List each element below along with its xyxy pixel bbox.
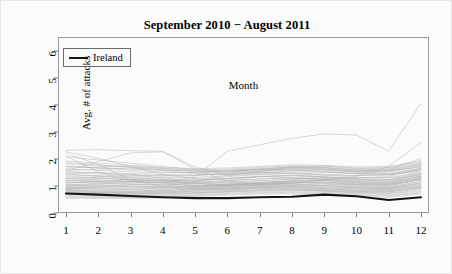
plot-area: Ireland Avg. # of attacks Month 0123456 … (58, 37, 429, 213)
x-tick-label: 12 (416, 224, 427, 236)
x-tick-mark (66, 213, 67, 217)
x-tick-label: 8 (289, 224, 295, 236)
x-tick-label: 9 (321, 224, 327, 236)
x-tick-mark (131, 213, 132, 217)
y-tick-label: 1 (45, 186, 57, 192)
y-tick-label: 2 (45, 159, 57, 165)
x-tick-mark (260, 213, 261, 217)
y-axis-title: Avg. # of attacks (80, 33, 92, 153)
x-tick-label: 2 (96, 224, 102, 236)
legend-label-ireland: Ireland (93, 52, 123, 63)
x-tick-mark (421, 213, 422, 217)
x-tick-mark (356, 213, 357, 217)
y-tick-label: 6 (45, 51, 57, 57)
y-tick-label: 0 (45, 213, 57, 219)
x-tick-label: 7 (257, 224, 263, 236)
x-tick-label: 6 (225, 224, 231, 236)
x-tick-mark (98, 213, 99, 217)
chart-title: September 2010 − August 2011 (1, 18, 452, 33)
y-tick-label: 4 (45, 105, 57, 111)
legend[interactable]: Ireland (63, 48, 131, 67)
x-tick-mark (163, 213, 164, 217)
chart-figure: September 2010 − August 2011 Ireland Avg… (0, 0, 452, 274)
x-tick-label: 4 (160, 224, 166, 236)
x-tick-mark (195, 213, 196, 217)
x-tick-label: 11 (383, 224, 394, 236)
y-tick-label: 3 (45, 132, 57, 138)
x-tick-mark (324, 213, 325, 217)
x-tick-label: 3 (128, 224, 134, 236)
x-tick-mark (227, 213, 228, 217)
x-tick-mark (292, 213, 293, 217)
x-tick-mark (389, 213, 390, 217)
y-tick-label: 5 (45, 78, 57, 84)
x-tick-label: 5 (192, 224, 198, 236)
x-tick-label: 1 (63, 224, 69, 236)
x-tick-label: 10 (351, 224, 362, 236)
x-axis-title: Month (58, 79, 429, 91)
